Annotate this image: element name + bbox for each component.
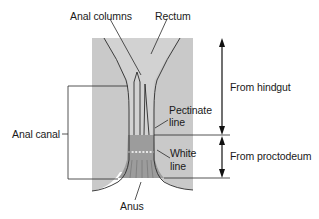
label-from-proctodeum: From proctodeum	[230, 150, 311, 162]
label-white-line-1: White	[170, 147, 196, 159]
anal-canal-diagram	[0, 0, 319, 219]
label-from-hindgut: From hindgut	[230, 81, 291, 93]
label-anal-canal: Anal canal	[12, 128, 60, 140]
hindgut-arrow	[219, 38, 225, 135]
label-pectinate-line-2: line	[169, 116, 185, 128]
proctodeum-arrow	[219, 136, 225, 178]
label-white-line-2: line	[170, 160, 186, 172]
label-rectum: Rectum	[155, 10, 191, 22]
label-anus: Anus	[120, 200, 144, 212]
label-anal-columns: Anal columns	[70, 10, 132, 22]
label-pectinate-line-1: Pectinate	[169, 104, 212, 116]
